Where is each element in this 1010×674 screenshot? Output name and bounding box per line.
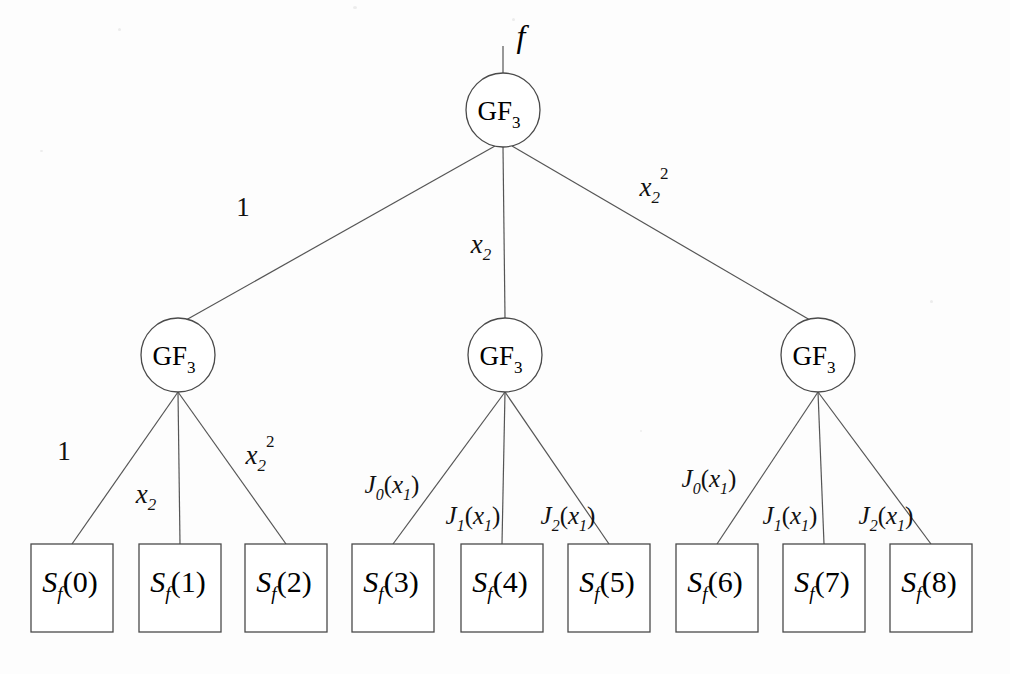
edge-middle-to-leaf-4 bbox=[502, 392, 505, 544]
edge-label-right-2: J2(x1) bbox=[859, 502, 914, 534]
edge-label-right-1: J1(x1) bbox=[763, 502, 818, 534]
edge-label-middle-2: J2(x1) bbox=[541, 502, 596, 534]
edge-root-to-middle bbox=[503, 147, 505, 318]
edge-left-to-leaf-1 bbox=[178, 392, 180, 544]
edge-root-to-left bbox=[186, 146, 495, 320]
edge-label-root-left: 1 bbox=[236, 192, 250, 222]
edge-left-to-leaf-0 bbox=[72, 392, 178, 544]
diagram-canvas: GF3 f GF3 GF3 GF3 1 x2 x22 1 x2 x22 J0(x… bbox=[0, 0, 1010, 674]
edge-label-left-1: x2 bbox=[135, 479, 157, 514]
scan-speck bbox=[118, 28, 121, 31]
edge-left-to-leaf-2 bbox=[178, 392, 286, 544]
root-input-label: f bbox=[517, 18, 530, 54]
edge-label-root-right: x22 bbox=[639, 164, 669, 207]
scan-speck bbox=[512, 18, 515, 21]
scan-speck bbox=[640, 430, 642, 432]
edge-right-to-leaf-7 bbox=[818, 392, 824, 544]
scan-speck bbox=[353, 6, 357, 9]
edge-label-middle-0: J0(x1) bbox=[365, 471, 420, 503]
scan-speck bbox=[930, 300, 933, 303]
edge-label-right-0: J0(x1) bbox=[682, 465, 737, 497]
scan-speck bbox=[40, 150, 43, 152]
tree-diagram: GF3 f GF3 GF3 GF3 1 x2 x22 1 x2 x22 J0(x… bbox=[0, 0, 1010, 674]
edge-label-middle-1: J1(x1) bbox=[446, 502, 501, 534]
edge-label-root-middle: x2 bbox=[470, 229, 492, 264]
edge-label-left-2: x22 bbox=[245, 432, 275, 475]
edge-label-left-0: 1 bbox=[57, 436, 71, 466]
